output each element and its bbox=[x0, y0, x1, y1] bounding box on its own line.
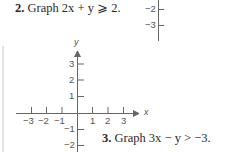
x-tick-label: 1 bbox=[90, 115, 95, 126]
problem-2: 2. Graph 2x + y ⩾ 2. bbox=[15, 0, 121, 16]
y-tick-label: 3 bbox=[69, 58, 74, 69]
y-tick-label: −2 bbox=[64, 139, 75, 150]
y-arrow-icon bbox=[75, 51, 81, 57]
axes-drawing bbox=[0, 0, 241, 152]
y-tick-label: 1 bbox=[69, 90, 74, 101]
problem-text: Graph 2x + y ⩾ 2. bbox=[28, 1, 121, 15]
tick-label: −2 bbox=[145, 3, 156, 14]
x-tick-label: 2 bbox=[105, 115, 110, 126]
problem-number: 3. bbox=[102, 131, 111, 145]
problem-text: Graph 3x − y > −3. bbox=[115, 131, 211, 145]
tick-label: −3 bbox=[145, 19, 156, 30]
y-tick-label: −1 bbox=[64, 123, 75, 134]
x-axis-label: x bbox=[144, 107, 149, 117]
y-axis-label: y bbox=[74, 37, 79, 47]
x-tick-label: 3 bbox=[121, 115, 126, 126]
x-tick-label: −3 bbox=[23, 115, 34, 126]
x-arrow-icon bbox=[133, 111, 139, 117]
y-tick-label: 2 bbox=[69, 74, 74, 85]
problem-number: 2. bbox=[15, 1, 24, 15]
problem-3: 3. Graph 3x − y > −3. bbox=[102, 131, 211, 146]
x-tick-label: −2 bbox=[38, 115, 49, 126]
top-axis-fragment bbox=[159, 0, 165, 41]
